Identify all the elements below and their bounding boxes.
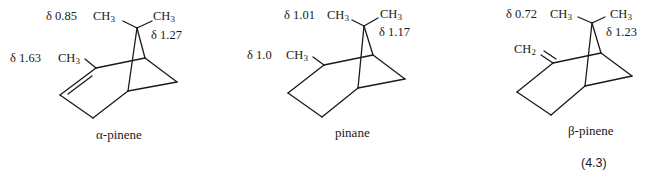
pinane-gem-methyl-left: CH3	[327, 9, 349, 22]
beta-pinene-gem-methyl-right-shift: δ 1.23	[606, 26, 637, 39]
beta-pinene-gem-methyl-left-shift: δ 0.72	[506, 8, 537, 21]
alpha-pinene-name: α-pinene	[96, 128, 142, 141]
equation-number: (4.3)	[581, 156, 607, 170]
alpha-pinene-gem-methyl-right-shift: δ 1.27	[151, 29, 182, 42]
beta-pinene-gem-methyl-right: CH3	[610, 8, 632, 21]
pinane-name: pinane	[335, 126, 370, 139]
pinane-ring-methyl: CH3	[286, 49, 308, 62]
alpha-pinene-gem-methyl-left: CH3	[93, 10, 115, 23]
pinane-gem-methyl-right-shift: δ 1.17	[379, 26, 410, 39]
alpha-pinene-gem-methyl-right: CH3	[153, 10, 175, 23]
beta-pinene-gem-methyl-left: CH3	[550, 8, 572, 21]
pinane-gem-methyl-right: CH3	[380, 8, 402, 21]
beta-pinene-name: β-pinene	[568, 124, 614, 137]
double-bond-line	[68, 76, 92, 94]
pinane-ring-methyl-shift: δ 1.0	[247, 49, 272, 62]
structure-drawings	[0, 0, 645, 193]
alpha-pinene-ring-methyl-shift: δ 1.63	[10, 52, 41, 65]
pinane-gem-methyl-left-shift: δ 1.01	[284, 9, 315, 22]
alpha-pinene-ring-methyl: CH3	[58, 52, 80, 65]
alpha-pinene-gem-methyl-left-shift: δ 0.85	[46, 10, 77, 23]
beta-pinene-exocyclic-methylene: CH2	[514, 43, 536, 56]
